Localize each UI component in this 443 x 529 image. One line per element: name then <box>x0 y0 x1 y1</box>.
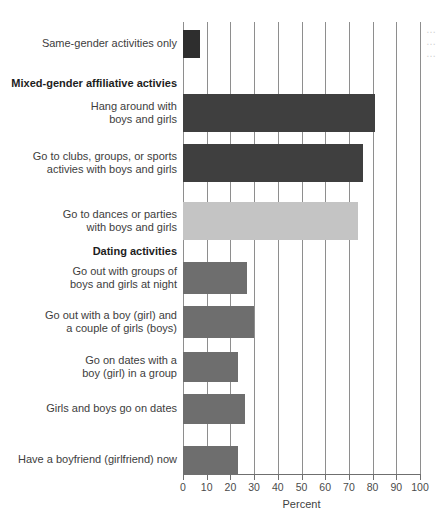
tick-mark-20 <box>230 474 231 480</box>
bar-chart: 0102030405060708090100 Percent Same-gend… <box>0 0 443 529</box>
bar <box>183 306 254 338</box>
gridline-70 <box>349 22 350 474</box>
bar <box>183 30 200 58</box>
tick-mark-70 <box>349 474 350 480</box>
bar <box>183 394 245 424</box>
tick-label-100: 100 <box>411 481 429 493</box>
tick-mark-60 <box>325 474 326 480</box>
gridline-40 <box>278 22 279 474</box>
category-label: Go to dances or parties with boys and gi… <box>0 208 177 234</box>
category-label: Hang around with boys and girls <box>0 100 177 126</box>
tick-mark-10 <box>207 474 208 480</box>
category-label: Girls and boys go on dates <box>0 402 177 415</box>
tick-mark-0 <box>183 474 184 480</box>
gridline-100 <box>420 22 421 474</box>
gridline-90 <box>396 22 397 474</box>
category-label: Go to clubs, groups, or sports activies … <box>0 150 177 176</box>
tick-mark-90 <box>396 474 397 480</box>
bar <box>183 262 247 294</box>
cropped-edge-text: … … … <box>426 24 443 60</box>
category-label: Have a boyfriend (girlfriend) now <box>0 453 177 466</box>
tick-label-50: 50 <box>296 481 308 493</box>
tick-mark-100 <box>420 474 421 480</box>
gridline-60 <box>325 22 326 474</box>
tick-mark-50 <box>302 474 303 480</box>
tick-label-80: 80 <box>367 481 379 493</box>
category-label: Go out with a boy (girl) and a couple of… <box>0 309 177 335</box>
bar <box>183 94 375 132</box>
gridline-30 <box>254 22 255 474</box>
bar <box>183 202 358 240</box>
bar <box>183 144 363 182</box>
tick-label-30: 30 <box>248 481 260 493</box>
tick-label-60: 60 <box>319 481 331 493</box>
tick-label-90: 90 <box>390 481 402 493</box>
group-header-label: Mixed-gender affiliative activies <box>0 77 177 90</box>
category-label: Go out with groups of boys and girls at … <box>0 265 177 291</box>
tick-label-40: 40 <box>272 481 284 493</box>
tick-mark-30 <box>254 474 255 480</box>
tick-label-10: 10 <box>201 481 213 493</box>
gridline-50 <box>302 22 303 474</box>
tick-label-20: 20 <box>225 481 237 493</box>
bar <box>183 352 238 382</box>
x-axis-title: Percent <box>183 498 420 510</box>
tick-label-0: 0 <box>180 481 186 493</box>
tick-label-70: 70 <box>343 481 355 493</box>
category-label: Same-gender activities only <box>0 37 177 50</box>
tick-mark-40 <box>278 474 279 480</box>
gridline-80 <box>373 22 374 474</box>
bar <box>183 446 238 474</box>
group-header-label: Dating activities <box>0 245 177 258</box>
tick-mark-80 <box>373 474 374 480</box>
plot-area <box>183 22 420 474</box>
category-label: Go on dates with a boy (girl) in a group <box>0 354 177 380</box>
